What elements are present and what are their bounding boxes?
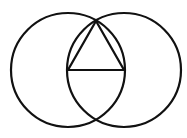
euclid-equilateral-triangle-diagram bbox=[0, 0, 187, 138]
equilateral-triangle bbox=[68, 21, 124, 70]
